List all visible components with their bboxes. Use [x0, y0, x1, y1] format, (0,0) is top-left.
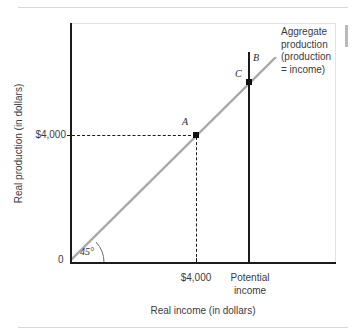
page-rule-top [18, 7, 348, 8]
y-tick-label-4000: $4,000 [22, 129, 66, 140]
potential-income-line2: income [228, 285, 272, 298]
point-label-c: C [235, 68, 242, 79]
legend-line-3: (production [281, 51, 343, 64]
page-edge-marker [345, 25, 348, 47]
potential-income-line1: Potential [228, 272, 272, 285]
x-tick-4000 [196, 258, 197, 264]
x-axis-title: Real income (in dollars) [70, 305, 336, 316]
legend-aggregate-production: Aggregate production (production = incom… [281, 26, 343, 76]
legend-line-2: production [281, 39, 343, 52]
x-tick-label-4000: $4,000 [167, 272, 225, 283]
point-label-b: B [253, 52, 259, 63]
y-axis [70, 23, 72, 264]
page-rule-bottom [18, 327, 348, 328]
angle-label: 45° [80, 246, 94, 257]
figure-page: A B C 45° $4,000 0 $4,000 Potential inco… [0, 0, 353, 334]
x-tick-potential-income [249, 258, 250, 264]
guide-vertical-dashed [196, 137, 197, 262]
guide-horizontal-dashed [72, 135, 196, 136]
y-tick-4000 [67, 135, 73, 136]
legend-line-4: = income) [281, 64, 343, 77]
point-marker-c [246, 79, 252, 85]
y-axis-title: Real production (in dollars) [13, 64, 24, 224]
legend-line-1: Aggregate [281, 26, 343, 39]
point-label-a: A [182, 116, 188, 127]
origin-label: 0 [58, 254, 64, 265]
point-marker-a [193, 132, 199, 138]
x-tick-label-potential-income: Potential income [228, 272, 272, 297]
